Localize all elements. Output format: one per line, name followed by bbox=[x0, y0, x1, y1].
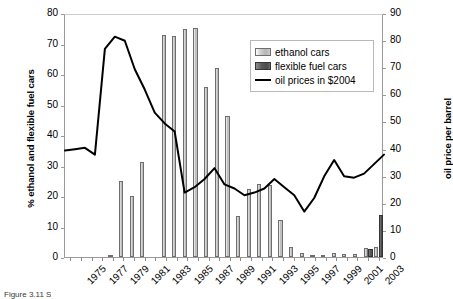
y-axis-right-tick-20: 20 bbox=[390, 197, 416, 208]
y-axis-left-tickmark bbox=[61, 14, 64, 15]
x-axis-tick-1979: 1979 bbox=[127, 263, 151, 287]
y-axis-right-tickmark bbox=[383, 204, 386, 205]
x-axis-tickmark-1975 bbox=[70, 257, 71, 261]
x-axis-tickmark-1990 bbox=[230, 257, 231, 261]
x-axis-tickmark-1997 bbox=[304, 257, 305, 261]
x-axis-tickmark-2001 bbox=[347, 257, 348, 261]
y-axis-right-tick-70: 70 bbox=[390, 61, 416, 72]
y-axis-left-tick-40: 40 bbox=[32, 129, 58, 140]
x-axis-tick-1999: 1999 bbox=[340, 263, 364, 287]
x-axis-tickmark-2002 bbox=[357, 257, 358, 261]
x-axis-tickmark-1977 bbox=[92, 257, 93, 261]
y-axis-left-tick-70: 70 bbox=[32, 38, 58, 49]
legend-swatch-line-icon bbox=[255, 79, 271, 81]
x-axis-tickmark-1984 bbox=[166, 257, 167, 261]
y-axis-right-title: oil price per barrel bbox=[442, 54, 453, 224]
x-axis-tickmark-2004 bbox=[379, 257, 380, 261]
legend-swatch-ethanol-icon bbox=[255, 48, 271, 56]
y-axis-right-tickmark bbox=[383, 177, 386, 178]
y-axis-right-tick-40: 40 bbox=[390, 143, 416, 154]
y-axis-right-tick-60: 60 bbox=[390, 88, 416, 99]
y-axis-left-tick-10: 10 bbox=[32, 221, 58, 232]
y-axis-right-tick-80: 80 bbox=[390, 34, 416, 45]
x-axis-tick-1985: 1985 bbox=[191, 263, 215, 287]
y-axis-right-tickmark bbox=[383, 150, 386, 151]
x-axis-tick-1989: 1989 bbox=[234, 263, 258, 287]
y-axis-left-tick-0: 0 bbox=[32, 251, 58, 262]
y-axis-left-tick-30: 30 bbox=[32, 160, 58, 171]
y-axis-right-tickmark bbox=[383, 95, 386, 96]
y-axis-left-tickmark bbox=[61, 136, 64, 137]
y-axis-left-tick-80: 80 bbox=[32, 7, 58, 18]
y-axis-right-tickmark bbox=[383, 122, 386, 123]
y-axis-right-tick-30: 30 bbox=[390, 170, 416, 181]
legend-item-flex: flexible fuel cars bbox=[255, 59, 368, 73]
x-axis-tickmark-1980 bbox=[123, 257, 124, 261]
x-axis-tickmark-2003 bbox=[368, 257, 369, 261]
y-axis-right-tick-50: 50 bbox=[390, 115, 416, 126]
y-axis-left-tick-60: 60 bbox=[32, 68, 58, 79]
legend-label: flexible fuel cars bbox=[275, 61, 347, 72]
y-axis-left-tickmark bbox=[61, 258, 64, 259]
y-axis-left-tickmark bbox=[61, 228, 64, 229]
x-axis-tick-1981: 1981 bbox=[149, 263, 173, 287]
y-axis-left-tickmark bbox=[61, 197, 64, 198]
x-axis-tickmark-1994 bbox=[272, 257, 273, 261]
x-axis-tickmark-1988 bbox=[209, 257, 210, 261]
x-axis-tick-2001: 2001 bbox=[361, 263, 385, 287]
x-axis-tickmark-1996 bbox=[294, 257, 295, 261]
y-axis-right-tickmark bbox=[383, 68, 386, 69]
x-axis-tickmark-1976 bbox=[81, 257, 82, 261]
x-axis-tickmark-1999 bbox=[326, 257, 327, 261]
legend-swatch-flex-icon bbox=[255, 62, 271, 70]
figure-caption: Figure 3.11 S bbox=[4, 290, 51, 299]
x-axis-tickmark-1978 bbox=[102, 257, 103, 261]
x-axis-tickmark-1983 bbox=[155, 257, 156, 261]
y-axis-right-tickmark bbox=[383, 14, 386, 15]
y-axis-left-tickmark bbox=[61, 106, 64, 107]
x-axis-tickmark-2000 bbox=[336, 257, 337, 261]
x-axis-tick-1983: 1983 bbox=[170, 263, 194, 287]
legend-label: oil prices in $2004 bbox=[275, 75, 356, 86]
x-axis-tickmark-1981 bbox=[134, 257, 135, 261]
x-axis-tick-1997: 1997 bbox=[319, 263, 343, 287]
x-axis-tickmark-1985 bbox=[177, 257, 178, 261]
x-axis-tickmark-1993 bbox=[262, 257, 263, 261]
y-axis-left-tick-50: 50 bbox=[32, 99, 58, 110]
legend-label: ethanol cars bbox=[275, 47, 329, 58]
x-axis-tickmark-1992 bbox=[251, 257, 252, 261]
x-axis-tick-2003: 2003 bbox=[383, 263, 407, 287]
y-axis-right-tickmark bbox=[383, 231, 386, 232]
y-axis-left-tickmark bbox=[61, 45, 64, 46]
legend-item-ethanol: ethanol cars bbox=[255, 45, 368, 59]
y-axis-right-tick-90: 90 bbox=[390, 7, 416, 18]
x-axis-tickmark-1986 bbox=[187, 257, 188, 261]
x-axis-tickmark-1982 bbox=[145, 257, 146, 261]
x-axis-tickmark-1998 bbox=[315, 257, 316, 261]
x-axis-tick-1975: 1975 bbox=[85, 263, 109, 287]
y-axis-left-tickmark bbox=[61, 167, 64, 168]
x-axis-tickmark-1991 bbox=[240, 257, 241, 261]
y-axis-right-tick-10: 10 bbox=[390, 224, 416, 235]
y-axis-left-tick-20: 20 bbox=[32, 190, 58, 201]
legend-item-line: oil prices in $2004 bbox=[255, 73, 368, 87]
y-axis-left-tickmark bbox=[61, 75, 64, 76]
x-axis-tick-1995: 1995 bbox=[297, 263, 321, 287]
x-axis-tick-1991: 1991 bbox=[255, 263, 279, 287]
x-axis-tickmark-1995 bbox=[283, 257, 284, 261]
x-axis-tick-1987: 1987 bbox=[212, 263, 236, 287]
y-axis-right-tick-0: 0 bbox=[390, 251, 416, 262]
x-axis-tick-1977: 1977 bbox=[106, 263, 130, 287]
x-axis-tickmark-1979 bbox=[113, 257, 114, 261]
x-axis-tickmark-1989 bbox=[219, 257, 220, 261]
x-axis-tick-1993: 1993 bbox=[276, 263, 300, 287]
chart-legend: ethanol carsflexible fuel carsoil prices… bbox=[250, 40, 374, 92]
y-axis-right-tickmark bbox=[383, 41, 386, 42]
x-axis-tickmark-1987 bbox=[198, 257, 199, 261]
y-axis-right-tickmark bbox=[383, 258, 386, 259]
